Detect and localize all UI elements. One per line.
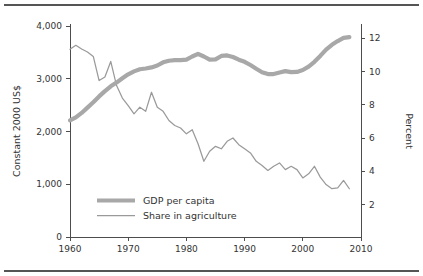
y2-tick-label-12: 12: [369, 33, 380, 43]
x-tick-label-2000: 2000: [291, 244, 314, 254]
y-tick-label-1000: 1,000: [36, 179, 62, 189]
y2-tick-label-10: 10: [369, 67, 381, 77]
left-axis-title: Constant 2000 US$: [11, 85, 22, 177]
y-tick-label-2000: 2,000: [36, 127, 62, 137]
legend: GDP per capita Share in agriculture: [97, 195, 237, 221]
y-tick-label-4000: 4,000: [36, 21, 62, 31]
x-tick-label-1970: 1970: [117, 244, 140, 254]
y2-tick-label-6: 6: [369, 133, 375, 143]
x-tick-label-1990: 1990: [233, 244, 256, 254]
legend-label-gdp-per-capita: GDP per capita: [143, 195, 215, 206]
x-tick-label-1960: 1960: [59, 244, 82, 254]
x-axis-ticks: 1960 1970 1980 1990 2000 2010: [59, 237, 373, 254]
y-tick-label-0: 0: [56, 232, 62, 242]
right-axis-title: Percent: [404, 113, 415, 149]
y-tick-label-3000: 3,000: [36, 74, 62, 84]
right-axis-ticks: 2 4 6 8 10 12: [361, 33, 381, 210]
y2-tick-label-8: 8: [369, 100, 375, 110]
legend-label-share-in-agriculture: Share in agriculture: [143, 210, 237, 221]
figure-container: 0 1,000 2,000 3,000 4,000 Constant 2000 …: [0, 0, 423, 276]
y2-tick-label-4: 4: [369, 166, 375, 176]
left-axis-ticks: 0 1,000 2,000 3,000 4,000: [36, 21, 70, 242]
x-tick-label-1980: 1980: [175, 244, 198, 254]
chart-canvas: 0 1,000 2,000 3,000 4,000 Constant 2000 …: [0, 0, 423, 276]
x-tick-label-2010: 2010: [350, 244, 373, 254]
y2-tick-label-2: 2: [369, 200, 375, 210]
series-line-gdp-per-capita: [70, 37, 349, 120]
